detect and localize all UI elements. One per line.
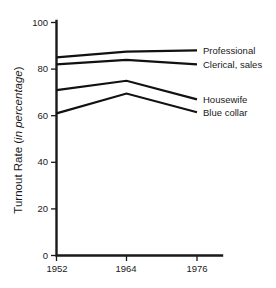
y-axis-title-italic: in percentage — [12, 70, 24, 140]
series-line-clerical-sales — [57, 60, 198, 65]
y-tick-label-40: 40 — [37, 156, 48, 167]
y-tick-label-60: 60 — [37, 110, 48, 121]
series-label-housewife: Housewife — [203, 94, 247, 105]
series-line-professional — [57, 50, 198, 57]
svg-text:Turnout Rate (in percentage): Turnout Rate (in percentage) — [12, 66, 24, 213]
series-label-clerical-sales: Clerical, sales — [203, 59, 262, 70]
y-axis-title-plain: Turnout Rate ( — [12, 140, 24, 214]
y-tick-label-20: 20 — [37, 203, 48, 214]
x-axis-tick-labels: 1952 1964 1976 — [46, 263, 207, 274]
x-tick-label-1964: 1964 — [115, 263, 136, 274]
y-axis-tick-labels: 0 20 40 60 80 100 — [32, 17, 48, 261]
series-line-housewife — [57, 81, 198, 100]
line-chart-canvas: Turnout Rate (in percentage) 0 20 40 60 … — [0, 0, 276, 288]
series-label-blue-collar: Blue collar — [203, 107, 247, 118]
y-tick-label-100: 100 — [32, 17, 48, 28]
series-label-professional: Professional — [203, 45, 255, 56]
series-group — [57, 50, 198, 113]
y-tick-label-80: 80 — [37, 63, 48, 74]
x-tick-label-1976: 1976 — [186, 263, 207, 274]
series-labels-group: ProfessionalClerical, salesHousewifeBlue… — [203, 45, 262, 118]
x-tick-label-1952: 1952 — [46, 263, 67, 274]
chart-figure: Turnout Rate (in percentage) 0 20 40 60 … — [0, 0, 276, 288]
y-axis-title-close: ) — [12, 66, 24, 70]
y-axis-title: Turnout Rate (in percentage) — [12, 66, 24, 213]
series-line-blue-collar — [57, 94, 198, 114]
y-tick-label-0: 0 — [43, 250, 48, 261]
